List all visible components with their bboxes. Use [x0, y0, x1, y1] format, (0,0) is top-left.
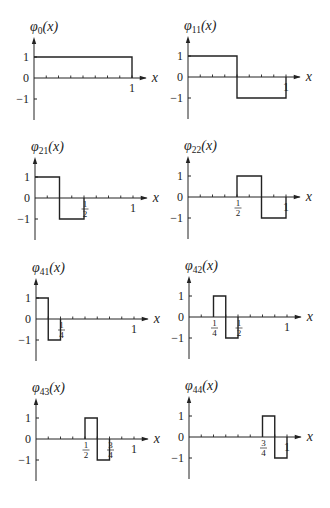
y-tick-label: 1 [178, 289, 184, 303]
svg-text:1: 1 [84, 440, 89, 450]
y-tick-label: −1 [16, 92, 29, 106]
y-axis: 10−1 [18, 278, 39, 361]
chart-panel-phi43: φ43(x)10−1x12341 [6, 379, 166, 489]
x-axis: x141 [36, 311, 161, 340]
chart-title: φ22(x) [184, 138, 217, 155]
y-axis-arrow-icon [34, 278, 38, 285]
y-tick-label: −1 [170, 91, 183, 105]
x-tick-label: 14 [211, 318, 218, 338]
x-axis: x12341 [36, 431, 161, 460]
y-tick-label: 0 [25, 432, 31, 446]
y-tick-label: 1 [25, 291, 31, 305]
chart-panel-phi0: φ0(x)10−1x1 [4, 18, 164, 128]
x-axis-label: x [305, 189, 313, 204]
y-axis: 10−1 [171, 276, 192, 359]
x-axis: x1 [188, 69, 313, 94]
y-tick-label: −1 [171, 331, 184, 345]
svg-text:4: 4 [212, 328, 217, 338]
svg-text:1: 1 [212, 318, 217, 328]
x-tick-label: 1 [131, 322, 137, 336]
x-tick-label: 1 [130, 201, 136, 215]
x-axis: x121 [35, 190, 160, 219]
x-axis: x121 [188, 189, 313, 218]
x-tick-label: 34 [107, 440, 114, 460]
x-tick-label: 34 [260, 438, 267, 458]
y-tick-label: −1 [171, 451, 184, 465]
x-axis-arrow-icon [142, 437, 149, 441]
y-tick-label: 0 [24, 191, 30, 205]
x-axis: x341 [189, 429, 314, 458]
y-tick-label: 1 [177, 169, 183, 183]
chart-title: φ0(x) [30, 19, 58, 36]
x-axis-arrow-icon [142, 317, 149, 321]
x-tick-label: 1 [129, 81, 135, 95]
x-axis: x14121 [189, 309, 314, 338]
y-axis-arrow-icon [187, 396, 191, 403]
x-axis-label: x [305, 69, 313, 84]
svg-text:1: 1 [236, 198, 241, 208]
y-tick-label: 0 [177, 70, 183, 84]
svg-text:2: 2 [84, 450, 89, 460]
series-line-φ0 [34, 57, 132, 78]
y-axis-arrow-icon [34, 398, 38, 405]
x-tick-label: 12 [83, 440, 90, 460]
y-tick-label: −1 [18, 453, 31, 467]
svg-text:3: 3 [261, 438, 266, 448]
y-tick-label: 0 [178, 310, 184, 324]
y-axis: 10−1 [170, 156, 191, 239]
y-axis-arrow-icon [186, 156, 190, 163]
y-axis-arrow-icon [186, 36, 190, 43]
y-tick-label: 1 [23, 50, 29, 64]
y-tick-label: 1 [24, 170, 30, 184]
svg-text:1: 1 [129, 81, 135, 95]
y-axis: 10−1 [16, 37, 37, 120]
svg-text:4: 4 [261, 448, 266, 458]
y-axis: 10−1 [170, 36, 191, 119]
chart-title: φ21(x) [31, 139, 64, 156]
y-tick-label: 0 [23, 71, 29, 85]
x-tick-label: 1 [131, 442, 137, 456]
x-tick-label: 12 [236, 318, 243, 338]
chart-title: φ11(x) [184, 18, 217, 35]
chart-panel-phi21: φ21(x)10−1x121 [5, 138, 165, 248]
y-tick-label: 0 [178, 430, 184, 444]
chart-panel-phi44: φ44(x)10−1x341 [159, 377, 319, 487]
y-axis: 10−1 [18, 398, 39, 481]
svg-text:1: 1 [130, 201, 136, 215]
svg-text:1: 1 [131, 322, 137, 336]
svg-text:2: 2 [236, 208, 241, 218]
x-axis-arrow-icon [140, 76, 147, 80]
y-tick-label: 0 [25, 312, 31, 326]
y-axis-arrow-icon [32, 37, 36, 44]
x-axis-label: x [306, 309, 314, 324]
chart-title: φ43(x) [32, 380, 65, 397]
x-tick-label: 12 [235, 198, 242, 218]
x-axis: x1 [34, 70, 159, 95]
y-tick-label: −1 [170, 211, 183, 225]
x-axis-label: x [306, 429, 314, 444]
x-tick-label: 1 [284, 320, 290, 334]
y-axis-arrow-icon [187, 276, 191, 283]
y-tick-label: 1 [177, 49, 183, 63]
x-tick-label: 14 [58, 320, 65, 340]
chart-title: φ41(x) [32, 260, 65, 277]
y-axis: 10−1 [17, 157, 38, 240]
svg-text:1: 1 [284, 320, 290, 334]
y-tick-label: 0 [177, 190, 183, 204]
y-axis: 10−1 [171, 396, 192, 479]
chart-panel-phi41: φ41(x)10−1x141 [6, 259, 166, 369]
x-axis-arrow-icon [295, 315, 302, 319]
y-tick-label: 1 [178, 409, 184, 423]
x-axis-arrow-icon [294, 75, 301, 79]
y-tick-label: −1 [18, 333, 31, 347]
chart-title: φ44(x) [185, 378, 218, 395]
chart-title: φ42(x) [185, 258, 218, 275]
x-axis-arrow-icon [141, 196, 148, 200]
x-axis-arrow-icon [295, 435, 302, 439]
chart-panel-phi22: φ22(x)10−1x121 [158, 137, 318, 247]
svg-text:1: 1 [131, 442, 137, 456]
x-axis-arrow-icon [294, 195, 301, 199]
x-tick-label: 12 [82, 199, 89, 219]
y-axis-arrow-icon [33, 157, 37, 164]
y-tick-label: 1 [25, 411, 31, 425]
